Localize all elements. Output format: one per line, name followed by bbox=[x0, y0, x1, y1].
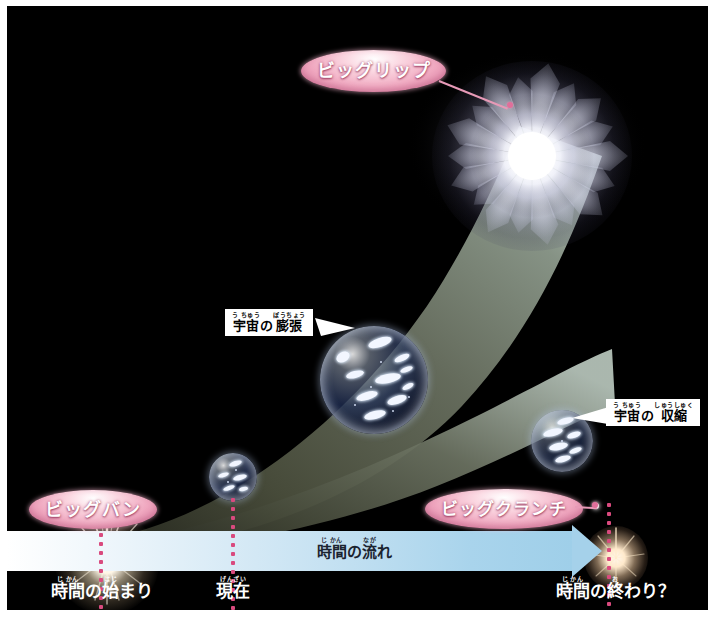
arrow-label-ruby-group-2: の bbox=[347, 537, 362, 559]
contraction-base-2: の bbox=[641, 409, 654, 422]
end-base-2: の bbox=[590, 583, 607, 600]
big-rip-rays bbox=[427, 56, 637, 256]
universe-sphere-large bbox=[320, 326, 428, 434]
callout-big-bang[interactable]: ビッグバン bbox=[29, 490, 157, 529]
start-ruby-group-2: の bbox=[85, 576, 102, 600]
end-ruby-group-2: の bbox=[590, 576, 607, 600]
callout-big-crunch-label: ビッグクランチ bbox=[441, 501, 567, 518]
callout-universe-contraction: う ちゅう 宇宙 の しゅうしゅく 収縮 bbox=[606, 399, 700, 426]
start-base-3: 始 bbox=[102, 583, 119, 600]
callout-big-bang-label: ビッグバン bbox=[45, 501, 141, 519]
arrow-label-base-4: れ bbox=[377, 544, 392, 559]
callout-big-rip-label: ビッグリップ bbox=[317, 62, 431, 80]
expansion-ruby-group-3: ぼうちょう 膨張 bbox=[273, 312, 306, 332]
present-base: 現在 bbox=[216, 583, 250, 600]
axis-label-start-of-time: じ かん 時間 の はじ 始 まり bbox=[27, 576, 177, 600]
time-arrow-shaft bbox=[7, 531, 572, 571]
big-rip-leader-dot bbox=[507, 102, 513, 108]
figure-page: じ かん 時間 の なが 流 れ じ かん bbox=[0, 0, 715, 644]
universe-sphere-small bbox=[209, 453, 257, 501]
expansion-base-3: 膨張 bbox=[273, 319, 306, 332]
axis-label-end-of-time: じ かん 時間 の お 終 わり？ bbox=[535, 576, 695, 600]
contraction-ruby-group-3: しゅうしゅく 収縮 bbox=[654, 402, 693, 422]
start-ruby-group-1: じ かん 時間 bbox=[51, 576, 85, 600]
contraction-ruby-group-1: う ちゅう 宇宙 bbox=[613, 402, 641, 422]
axis-label-present: げんざい 現在 bbox=[185, 576, 281, 600]
callout-expansion-tail bbox=[315, 314, 357, 340]
present-ruby-group: げんざい 現在 bbox=[216, 576, 250, 600]
expansion-base-1: 宇宙 bbox=[232, 319, 260, 332]
contraction-ruby-group-2: の bbox=[641, 402, 654, 422]
big-crunch-leader-dot bbox=[592, 502, 598, 508]
callout-big-crunch[interactable]: ビッグクランチ bbox=[425, 489, 583, 529]
cosmology-diagram-canvas: じ かん 時間 の なが 流 れ じ かん bbox=[7, 6, 708, 610]
arrow-label-base-1: 時間 bbox=[317, 544, 347, 559]
callout-contraction-tail bbox=[570, 402, 614, 428]
callout-big-rip[interactable]: ビッグリップ bbox=[301, 50, 446, 92]
time-arrow-label: じ かん 時間 の なが 流 れ bbox=[317, 537, 392, 559]
arrow-label-ruby-group-4: れ bbox=[377, 537, 392, 559]
expansion-base-2: の bbox=[260, 319, 273, 332]
start-base-2: の bbox=[85, 583, 102, 600]
expansion-ruby-group-1: う ちゅう 宇宙 bbox=[232, 312, 260, 332]
end-base-1: 時間 bbox=[556, 583, 590, 600]
end-ruby-group-4: わり？ bbox=[624, 576, 675, 600]
end-ruby-group-3: お 終 bbox=[607, 576, 624, 600]
arrow-label-ruby-group-3: なが 流 bbox=[362, 537, 377, 559]
end-base-4: わり？ bbox=[624, 583, 675, 600]
contraction-base-3: 収縮 bbox=[654, 409, 693, 422]
arrow-label-ruby-group-1: じ かん 時間 bbox=[317, 537, 347, 559]
callout-universe-expansion: う ちゅう 宇宙 の ぼうちょう 膨張 bbox=[225, 309, 313, 336]
arrow-label-base-3: 流 bbox=[362, 544, 377, 559]
time-arrow-head bbox=[572, 525, 602, 577]
arrow-label-base-2: の bbox=[347, 544, 362, 559]
contraction-base-1: 宇宙 bbox=[613, 409, 641, 422]
start-ruby-group-4: まり bbox=[119, 576, 153, 600]
expansion-ruby-group-2: の bbox=[260, 312, 273, 332]
start-base-4: まり bbox=[119, 583, 153, 600]
end-base-3: 終 bbox=[607, 583, 624, 600]
start-base-1: 時間 bbox=[51, 583, 85, 600]
end-ruby-group-1: じ かん 時間 bbox=[556, 576, 590, 600]
start-ruby-group-3: はじ 始 bbox=[102, 576, 119, 600]
big-rip-burst bbox=[427, 56, 637, 256]
